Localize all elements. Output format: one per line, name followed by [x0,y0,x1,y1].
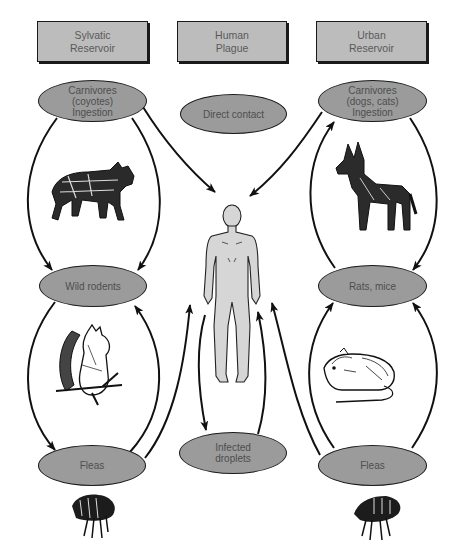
wild-rodents-label: Wild rodents [65,281,121,292]
urban-fleas-node: Fleas [318,445,427,486]
rat-illustration [324,348,394,402]
urban-carnivores-node: Carnivores (dogs, cats) Ingestion [318,80,427,122]
dog-illustration [336,142,416,230]
arrow-rodents-to-fleas [28,302,55,450]
arrow-sylvatic-fleas-to-human [145,305,190,458]
sylvatic-fleas-label: Fleas [80,460,104,471]
sylvatic-carnivores-node: Carnivores (coyotes) Ingestion [38,80,147,122]
infected-droplets-node: Infected droplets [179,432,287,474]
arrow-coyote-to-rodents-right [132,118,160,270]
urban-reservoir-label: Urban Reservoir [349,29,394,55]
arrow-fleas-to-rodents [130,306,159,452]
rats-mice-node: Rats, mice [318,265,427,307]
sylvatic-fleas-node: Fleas [38,445,146,486]
rats-mice-label: Rats, mice [349,281,396,292]
arrow-fleas-to-rats-right [412,303,437,448]
flea-right-illustration [354,496,400,540]
arrow-urban-carnivores-to-rats [410,118,437,270]
urban-fleas-label: Fleas [360,460,384,471]
sylvatic-reservoir-box: Sylvatic Reservoir [37,21,148,62]
infected-droplets-label: Infected droplets [215,442,251,464]
urban-reservoir-box: Urban Reservoir [316,21,427,62]
arrow-droplets-to-human [258,312,266,434]
arrow-rats-to-urban-carnivores [310,122,335,268]
sylvatic-reservoir-label: Sylvatic Reservoir [70,29,115,55]
squirrel-illustration [56,325,122,405]
coyote-illustration [52,162,134,220]
human-plague-box: Human Plague [177,21,287,62]
sylvatic-carnivores-label: Carnivores (coyotes) Ingestion [68,85,116,118]
wild-rodents-node: Wild rodents [39,265,147,307]
plague-transmission-diagram: Sylvatic Reservoir Human Plague Urban Re… [0,0,460,552]
arrow-urban-fleas-to-human [272,303,320,455]
direct-contact-node: Direct contact [180,94,287,134]
direct-contact-label: Direct contact [203,109,264,120]
urban-carnivores-label: Carnivores (dogs, cats) Ingestion [346,85,398,118]
flea-left-illustration [72,494,115,538]
human-figure-illustration [204,205,260,382]
human-plague-label: Human Plague [215,29,249,55]
arrow-human-to-droplets [199,315,206,430]
